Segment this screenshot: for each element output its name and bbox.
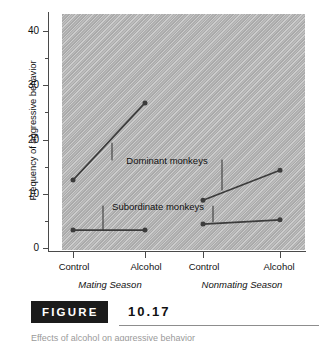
- figure-tag: FIGURE: [31, 301, 108, 323]
- y-axis-title: Frequency of aggressive behavior: [27, 31, 38, 231]
- y-tick-label-0: 0: [33, 242, 39, 253]
- y-tick-label-20: 20: [28, 134, 39, 145]
- x-tick-nonmating-control: [203, 252, 204, 258]
- figure-container: Frequency of aggressive behavior 40 30 2…: [0, 0, 319, 341]
- caption-text-clipped: Effects of alcohol on aggressive behavio…: [31, 333, 291, 341]
- y-tick-label-40: 40: [28, 25, 39, 36]
- y-tick-label-30: 30: [28, 79, 39, 90]
- figure-caption-bar: FIGURE 10.17: [31, 301, 319, 327]
- figure-rule: [119, 325, 319, 327]
- y-axis-line: [48, 12, 49, 252]
- group-label-nonmating-season: Nonmating Season: [202, 279, 283, 290]
- x-tick-label-mating-alcohol: Alcohol: [130, 261, 161, 272]
- y-tick-minor-25: [45, 112, 50, 113]
- x-axis-line: [48, 251, 306, 252]
- y-tick-minor-35: [45, 58, 50, 59]
- x-tick-nonmating-alcohol: [280, 252, 281, 258]
- y-tick-10: 10: [43, 194, 49, 195]
- x-tick-mating-control: [73, 252, 74, 258]
- annotation-dominant-monkeys: Dominant monkeys: [126, 155, 207, 166]
- x-tick-label-mating-control: Control: [59, 261, 90, 272]
- y-tick-30: 30: [43, 85, 49, 86]
- y-tick-0: 0: [43, 248, 49, 249]
- plot-panel: [62, 14, 305, 250]
- x-tick-label-nonmating-alcohol: Alcohol: [263, 261, 294, 272]
- figure-number: 10.17: [128, 304, 171, 319]
- y-tick-label-10: 10: [28, 188, 39, 199]
- chart: Frequency of aggressive behavior 40 30 2…: [0, 0, 319, 300]
- x-tick-mating-alcohol: [145, 252, 146, 258]
- y-tick-minor-5: [45, 221, 50, 222]
- group-label-mating-season: Mating Season: [78, 279, 141, 290]
- y-tick-minor-15: [45, 167, 50, 168]
- x-tick-label-nonmating-control: Control: [189, 261, 220, 272]
- y-tick-20: 20: [43, 140, 49, 141]
- annotation-subordinate-monkeys: Subordinate monkeys: [112, 201, 204, 212]
- y-tick-40: 40: [43, 31, 49, 32]
